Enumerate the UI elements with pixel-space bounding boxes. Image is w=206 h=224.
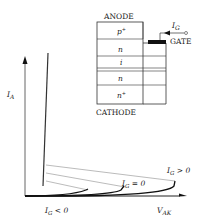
x-axis-arrow-icon xyxy=(179,194,187,197)
thyristor-diagram: ANODE CATHODE GATE IG p+ n i n n+ IA VAK… xyxy=(0,0,206,224)
x-axis-label: VAK xyxy=(157,206,172,216)
gate-label: GATE xyxy=(170,37,191,46)
layer-i: i xyxy=(120,58,123,67)
curve-label-ig-neg: IG < 0 xyxy=(44,206,68,216)
y-axis-label: IA xyxy=(6,90,15,100)
curve-label-ig-pos: IG > 0 xyxy=(166,166,190,176)
layer-p-plus: p+ xyxy=(117,26,126,36)
y-axis-arrow-icon xyxy=(23,56,28,64)
device-cross-section: ANODE CATHODE GATE IG p+ n i n n+ xyxy=(96,12,191,117)
gate-contact xyxy=(148,40,166,44)
gate-current-label: IG xyxy=(171,21,180,31)
layer-n: n xyxy=(118,45,123,54)
layer-n-plus: n+ xyxy=(117,90,126,100)
layer-n-2: n xyxy=(118,74,123,83)
cathode-label: CATHODE xyxy=(96,108,136,117)
anode-label: ANODE xyxy=(103,12,134,21)
curve-label-ig-zero: IG = 0 xyxy=(121,179,145,189)
gate-terminal-icon xyxy=(185,32,188,35)
iv-plot: IA VAK IG < 0 IG = 0 IG > 0 xyxy=(6,53,190,216)
arrow-left-icon xyxy=(164,31,170,36)
